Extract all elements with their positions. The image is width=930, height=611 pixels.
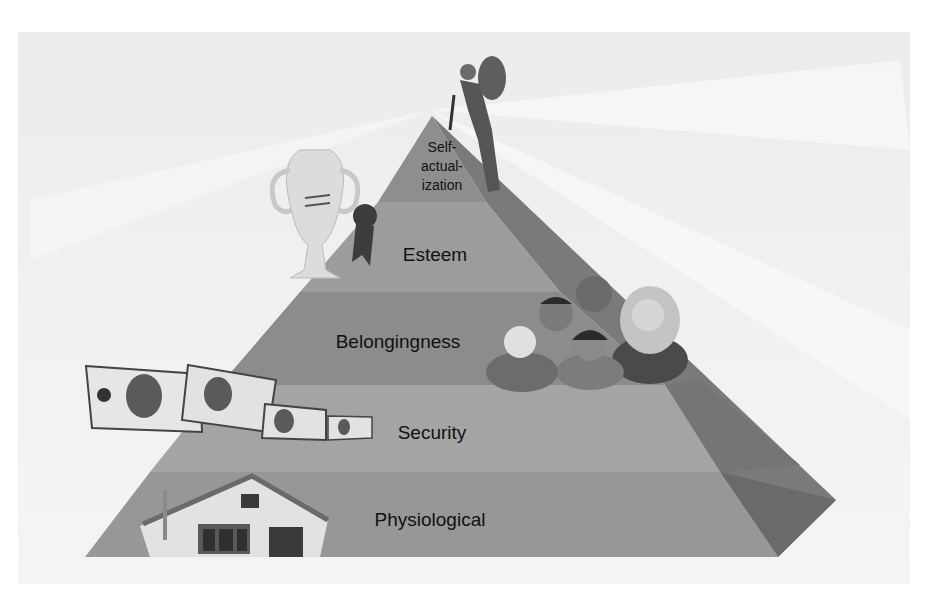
label-physiological: Physiological bbox=[375, 510, 486, 530]
label-belongingness: Belongingness bbox=[336, 332, 461, 352]
label-line: ization bbox=[421, 176, 463, 195]
label-security: Security bbox=[398, 423, 467, 443]
label-line: Self- bbox=[421, 138, 463, 157]
label-self-actualization: Self- actual- ization bbox=[421, 138, 463, 195]
label-line: actual- bbox=[421, 157, 463, 176]
label-esteem: Esteem bbox=[403, 245, 467, 265]
